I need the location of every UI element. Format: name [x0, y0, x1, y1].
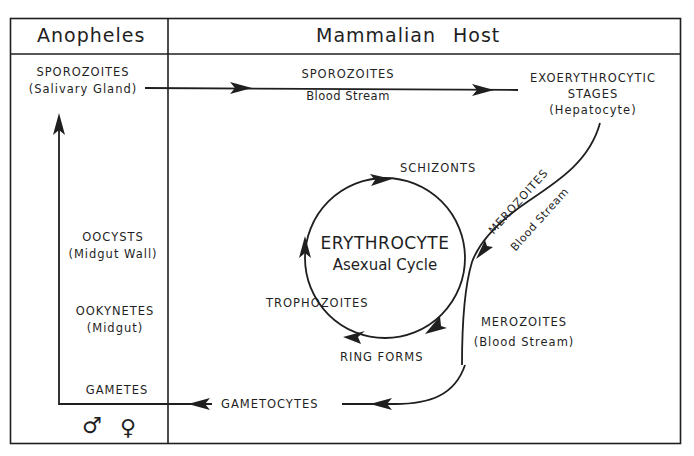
cycle-title: ERYTHROCYTE [320, 232, 450, 254]
stage-name: MEROZOITES [468, 312, 580, 332]
erythrocyte-cycle-title: ERYTHROCYTE Asexual Cycle [320, 232, 450, 276]
stage-location: (Hepatocyte) [518, 102, 668, 118]
stage-sporozoites-bloodstream: SPOROZOITES Blood Stream [283, 66, 413, 105]
stage-location: (Midgut Wall) [58, 246, 168, 263]
stage-name: OOKYNETES [60, 303, 170, 320]
stage-schizonts: SCHIZONTS [400, 160, 476, 177]
male-symbol-icon: ♂ [82, 413, 102, 438]
stage-gametocytes: GAMETOCYTES [221, 396, 319, 413]
female-symbol-icon: ♀ [120, 415, 136, 440]
stage-location: Blood Stream [283, 88, 413, 105]
stage-location: (Midgut) [60, 320, 170, 337]
gametocyte-path [342, 365, 465, 404]
stage-name-line1: EXOERYTHROCYTIC [518, 70, 668, 86]
stage-name: GAMETES [62, 382, 172, 399]
header-mammalian-host: Mammalian Host [316, 24, 500, 46]
arrowhead [343, 331, 365, 344]
stage-ookynetes: OOKYNETES (Midgut) [60, 303, 170, 337]
stage-oocysts: OOCYSTS (Midgut Wall) [58, 229, 168, 263]
stage-location: (Blood Stream) [468, 332, 580, 352]
stage-ring-forms: RING FORMS [340, 349, 423, 366]
stage-name: SPOROZOITES [18, 64, 148, 81]
header-anopheles: Anopheles [37, 24, 145, 46]
stage-sporozoites-mosquito: SPOROZOITES (Salivary Gland) [18, 64, 148, 98]
stage-name: SPOROZOITES [283, 66, 413, 83]
cycle-subtitle: Asexual Cycle [320, 254, 450, 276]
stage-name: OOCYSTS [58, 229, 168, 246]
stage-merozoites-release: MEROZOITES (Blood Stream) [468, 312, 580, 352]
arrowhead [370, 174, 392, 186]
stage-exoerythrocytic: EXOERYTHROCYTIC STAGES (Hepatocyte) [518, 70, 668, 118]
stage-trophozoites: TROPHOZOITES [266, 295, 369, 312]
stage-gametes: GAMETES [62, 382, 172, 399]
stage-name-line2: STAGES [518, 86, 668, 102]
stage-location: (Salivary Gland) [18, 81, 148, 98]
